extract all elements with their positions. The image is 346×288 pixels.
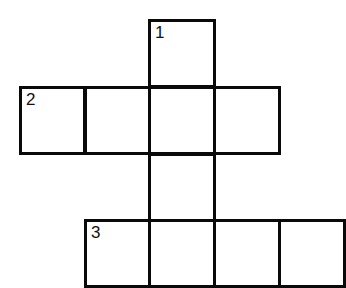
crossword-cell[interactable] <box>213 219 281 288</box>
crossword-cell[interactable] <box>213 86 281 155</box>
crossword-cell[interactable] <box>148 153 216 222</box>
crossword-cell[interactable] <box>148 86 216 155</box>
clue-number: 2 <box>26 91 35 108</box>
crossword-cell[interactable] <box>278 219 346 288</box>
crossword-cell[interactable]: 1 <box>148 19 216 88</box>
crossword-cell[interactable] <box>84 86 151 155</box>
crossword-cell[interactable] <box>148 219 216 288</box>
clue-number: 3 <box>91 224 100 241</box>
clue-number: 1 <box>155 24 164 41</box>
crossword-cell[interactable]: 2 <box>19 86 86 155</box>
crossword-cell[interactable]: 3 <box>84 219 151 288</box>
